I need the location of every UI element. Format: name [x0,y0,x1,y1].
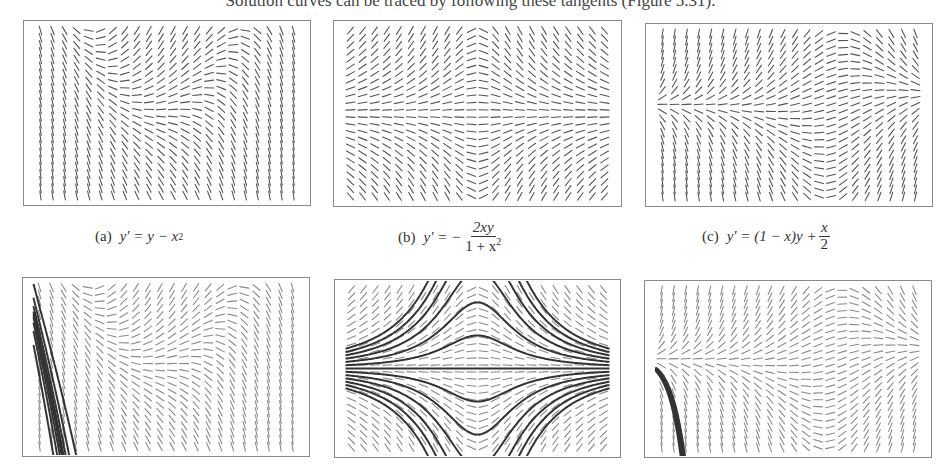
solution-curves-c [644,280,932,458]
caption-c-fraction: x 2 [819,220,831,253]
cropped-body-text: Solution curves can be traced by followi… [0,0,941,11]
solution-curves-a [22,277,310,457]
caption-b: (b) y′ = − 2xy 1 + x2 [398,220,505,255]
caption-b-numerator: 2xy [471,220,496,237]
solution-curves-b-plot [335,280,620,457]
caption-b-den-exponent: 2 [496,236,501,247]
caption-a-label: (a) [95,228,112,245]
caption-b-lhs: y′ = − [424,229,462,246]
caption-a-lhs: y′ = [120,228,144,245]
slope-field-c [645,23,933,207]
solution-curves-a-plot [23,278,309,456]
slope-field-a-plot [24,21,310,205]
caption-b-denominator: 1 + x2 [463,237,503,255]
caption-c-numerator: x [819,220,830,237]
caption-a: (a) y′ = y − x2 [95,228,183,245]
caption-b-label: (b) [398,229,416,246]
slope-field-b-plot [334,21,621,206]
slope-field-b [333,20,622,207]
caption-b-fraction: 2xy 1 + x2 [463,220,503,255]
caption-c-denominator: 2 [819,237,831,253]
solution-curves-b [334,279,621,458]
solution-curves-c-plot [645,281,931,457]
caption-b-den-text: 1 + x [465,238,496,254]
caption-c-label: (c) [702,228,719,245]
slope-field-c-plot [646,24,932,206]
slope-field-a [23,20,311,206]
caption-c-lhs: y′ = (1 − x)y + [727,228,817,245]
caption-a-rhs: y − x [147,228,178,245]
caption-a-exponent: 2 [178,231,183,242]
caption-c: (c) y′ = (1 − x)y + x 2 [702,220,832,253]
